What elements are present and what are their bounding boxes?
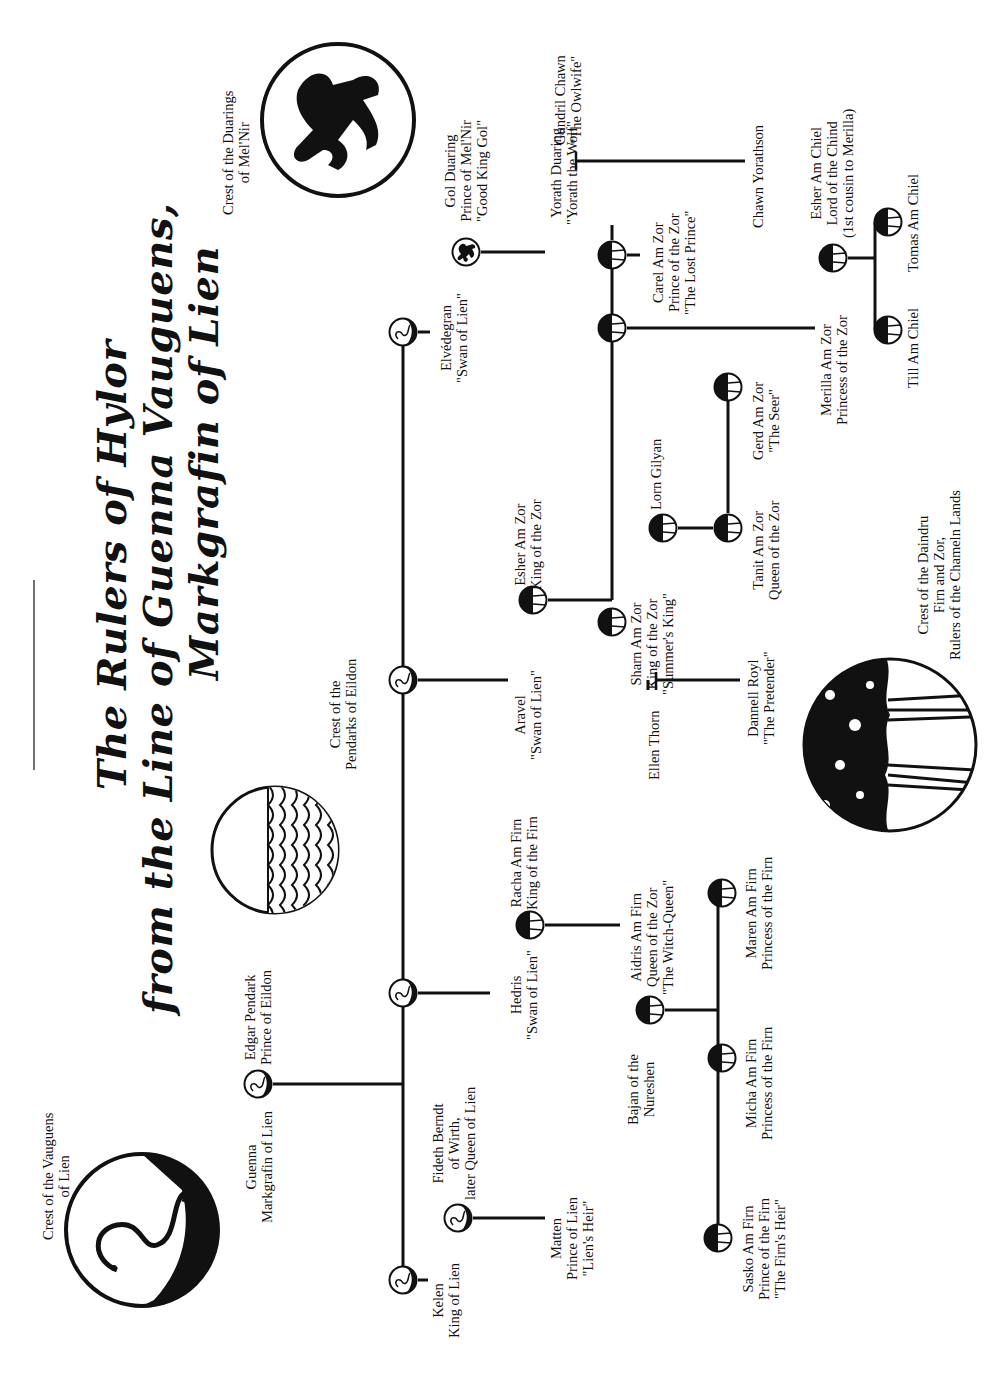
person-esher-am-zor[interactable]: Esher Am ZorKing of the Zor [512, 499, 544, 590]
hedris-swan-node-icon[interactable] [388, 978, 418, 1008]
maren-tree-node-icon[interactable] [707, 878, 737, 908]
carel-tree-node-icon[interactable] [597, 240, 627, 270]
person-elvedegran[interactable]: Elvédegran"Swan of Lien" [438, 293, 470, 383]
person-edgar-pendark[interactable]: Edgar PendarkPrince of Eildon [242, 970, 274, 1065]
till-tree-node-icon[interactable] [873, 315, 903, 345]
person-gundril-chawn[interactable]: Gundril Chawn"The Owlwife" [552, 55, 584, 145]
title-line-2: from the Line of Guenna Vauguens, [136, 203, 180, 1014]
person-ellen-thorn[interactable]: Ellen Thorn [646, 711, 662, 780]
aravel-swan-node-icon[interactable] [388, 665, 418, 695]
duarings-horse-crest-icon [258, 40, 418, 200]
micha-tree-node-icon[interactable] [707, 1043, 737, 1073]
person-micha-am-firn[interactable]: Micha Am FirnPrincess of the Firn [743, 1027, 775, 1140]
sharn-tree-node-icon[interactable] [597, 607, 627, 637]
gol-horse-node-icon[interactable] [451, 237, 481, 267]
person-dannell-royl[interactable]: Dannell Royl"The Pretender" [745, 651, 777, 745]
person-gol-duaring[interactable]: Gol DuaringPrince of Mel'Nir"Good King G… [442, 120, 490, 222]
kelen-swan-node-icon[interactable] [388, 1265, 418, 1295]
pendarks-waves-crest-icon [210, 785, 340, 915]
person-racha-am-firn[interactable]: Racha Am FirnKing of the Firn [508, 816, 540, 910]
vauguens-crest-label: Crest of the Vauguensof Lien [40, 1113, 72, 1240]
person-gerd-am-zor[interactable]: Gerd Am Zor"The Seer" [750, 382, 782, 460]
aidris-tree-node-icon[interactable] [635, 995, 665, 1025]
person-maren-am-firn[interactable]: Maren Am FirnPrincess of the Firn [743, 857, 775, 970]
person-hedris[interactable]: Hedris"Swan of Lien" [508, 950, 540, 1040]
person-aidris-am-firn[interactable]: Aidris Am FirnQueen of the Zor"The Witch… [628, 880, 676, 995]
tomas-tree-node-icon[interactable] [873, 207, 903, 237]
person-fideth-berndt[interactable]: Fideth Berndtof Wirth,later Queen of Lie… [430, 1087, 478, 1200]
title-line-3: Markgrafin of Lien [182, 246, 226, 680]
fideth-swan-node-icon[interactable] [443, 1203, 473, 1233]
person-lorn-gilyan[interactable]: Lorn Gilyan [648, 439, 664, 510]
duarings-crest-label: Crest of the Duaringsof Mel'Nir [220, 91, 252, 215]
person-aravel[interactable]: Aravel"Swan of Lien" [512, 670, 544, 760]
person-sharn-am-zor[interactable]: Sharn Am ZorKing of the Zor"Summer's Kin… [628, 593, 676, 695]
person-tanit-am-zor[interactable]: Tanit Am ZorQueen of the Zor [750, 501, 782, 600]
person-merilla-am-zor[interactable]: Merilla Am ZorPrincess of the Zor [818, 315, 850, 425]
lorn-tree-node-icon[interactable] [648, 513, 678, 543]
merilla-parent-tree-node-icon[interactable] [597, 313, 627, 343]
title-line-1: The Rulers of Hylor [90, 340, 134, 790]
person-guenna[interactable]: GuennaMarkgrafin of Lien [243, 1111, 275, 1223]
daindru-crest-label: Crest of the DaindruFirn and Zor,Rulers … [915, 490, 963, 660]
tanit-tree-node-icon[interactable] [713, 513, 743, 543]
person-tomas-am-chiel[interactable]: Tomas Am Chiel [905, 174, 921, 272]
guenna-swan-node-icon[interactable] [243, 1069, 273, 1099]
person-bajan[interactable]: Bajan of theNureshen [625, 1054, 657, 1125]
sasko-tree-node-icon[interactable] [703, 1223, 733, 1253]
vauguens-swan-crest-icon [62, 1150, 222, 1310]
racha-tree-node-icon[interactable] [515, 910, 545, 940]
pendarks-crest-label: Crest of thePendarks of Eildon [327, 659, 359, 770]
person-chawn-yorathson[interactable]: Chawn Yorathson [750, 125, 766, 228]
person-esher-am-chiel[interactable]: Esher Am ChielLord of the Chind(1st cous… [808, 109, 856, 238]
person-kelen[interactable]: KelenKing of Lien [430, 1263, 462, 1338]
person-till-am-chiel[interactable]: Till Am Chiel [905, 308, 921, 388]
gerd-tree-node-icon[interactable] [713, 372, 743, 402]
person-matten[interactable]: MattenPrince of Lien"Lien's Heir" [548, 1197, 596, 1280]
elvedegran-swan-node-icon[interactable] [388, 317, 418, 347]
person-sasko-am-firn[interactable]: Sasko Am FirnPrince of the Firn"The Firn… [740, 1198, 788, 1300]
daindru-tree-crest-icon [800, 655, 980, 835]
esher-chiel-tree-node-icon[interactable] [818, 243, 848, 273]
person-carel-am-zor[interactable]: Carel Am ZorPrince of the Zor"The Lost P… [650, 211, 698, 315]
